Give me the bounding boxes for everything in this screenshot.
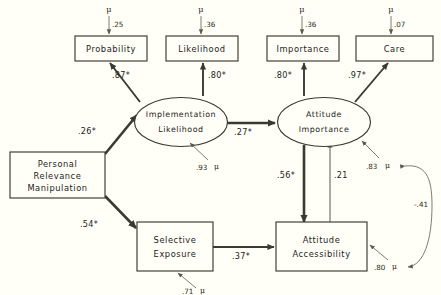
mu-symbol-selective-exposure: μ	[200, 286, 205, 295]
coefficient-prm-to-impl: .26*	[78, 126, 96, 136]
indicator-box-probability: Probability	[75, 36, 147, 61]
sem-path-diagram: μ .25 μ .36 μ .36 μ .07 .87* .80* .80* .…	[0, 0, 441, 295]
label-prm-line3: Manipulation	[27, 183, 87, 193]
mu-symbol-attitude-importance-disturbance: μ	[385, 161, 390, 170]
label-selexp-line1: Selective	[154, 235, 197, 245]
latent-label-attitude: Attitude	[306, 110, 342, 119]
rect-attitude-accessibility	[276, 222, 367, 271]
mu-symbol-care: μ	[388, 4, 394, 14]
diagram-canvas: μ .25 μ .36 μ .36 μ .07 .87* .80* .80* .…	[0, 0, 441, 295]
mu-symbol-importance: μ	[299, 4, 305, 14]
residual-value-importance: .36	[305, 20, 317, 29]
indicator-box-importance: Importance	[267, 36, 339, 61]
box-selective-exposure: Selective Exposure	[137, 222, 213, 271]
label-selexp-line2: Exposure	[154, 249, 197, 259]
mu-symbol-implementation-disturbance: μ	[214, 162, 219, 171]
coefficient-disturbance-correlation: -.41	[414, 200, 428, 209]
indicator-box-likelihood: Likelihood	[166, 36, 238, 61]
latent-label-implementation: Implementation	[146, 110, 216, 119]
latent-ellipse-implementation-likelihood: Implementation Likelihood	[135, 98, 228, 147]
coefficient-impl-to-attimp: .27*	[234, 127, 252, 137]
coefficient-attimp-to-importance: .80*	[274, 70, 292, 80]
disturbance-value-attitude-importance: .83	[366, 162, 377, 171]
label-attacc-line1: Attitude	[303, 235, 341, 245]
latent-label-importance: Importance	[299, 125, 350, 134]
coefficient-impl-to-likelihood: .80*	[208, 70, 226, 80]
indicator-label-probability: Probability	[86, 44, 136, 54]
coefficient-attacc-to-attimp: .21	[334, 170, 348, 180]
residual-value-likelihood: .36	[204, 20, 216, 29]
disturbance-value-implementation: .93	[196, 163, 207, 172]
label-prm-line2: Relevance	[34, 171, 82, 181]
coefficient-prm-to-selexp: .54*	[80, 219, 98, 229]
label-attacc-line2: Accessibility	[292, 249, 350, 259]
latent-label-likelihood: Likelihood	[158, 125, 203, 134]
coefficient-attimp-to-care: .97*	[348, 70, 366, 80]
coefficient-attimp-to-attacc: .56*	[277, 170, 295, 180]
residual-value-care: .07	[394, 20, 405, 29]
indicator-label-care: Care	[384, 44, 405, 54]
latent-shape-implementation-likelihood	[135, 98, 228, 147]
box-personal-relevance-manipulation: Personal Relevance Manipulation	[10, 152, 105, 198]
disturbance-value-attitude-accessibility: .80	[374, 263, 386, 272]
label-prm-line1: Personal	[38, 159, 78, 169]
indicator-label-importance: Importance	[276, 44, 329, 54]
indicator-box-care: Care	[356, 36, 433, 61]
mu-symbol-probability: μ	[106, 4, 112, 14]
coefficient-impl-to-probability: .87*	[112, 70, 130, 80]
indicator-label-likelihood: Likelihood	[178, 44, 225, 54]
mu-symbol-attitude-accessibility: μ	[392, 262, 397, 271]
rect-selective-exposure	[137, 222, 213, 271]
box-attitude-accessibility: Attitude Accessibility	[276, 222, 367, 271]
disturbance-value-selective-exposure: .71	[182, 287, 193, 295]
mu-symbol-likelihood: μ	[198, 4, 204, 14]
coefficient-selexp-to-attacc: .37*	[232, 251, 250, 261]
latent-shape-attitude-importance	[278, 98, 371, 147]
residual-value-probability: .25	[112, 20, 123, 29]
latent-ellipse-attitude-importance: Attitude Importance	[278, 98, 371, 147]
